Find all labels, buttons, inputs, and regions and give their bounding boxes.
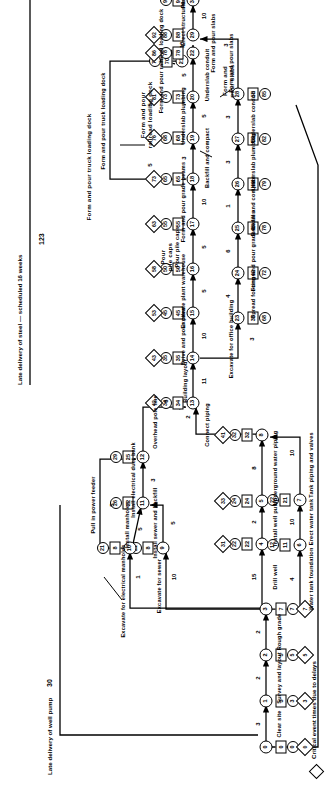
activity-duration-8-13: 2 (185, 415, 191, 418)
activity-label-12-13: Overhead pole line (152, 395, 158, 449)
activity-label-2-3: Rough grade (276, 614, 282, 651)
activity-label-22-29: Form and pour slabs (210, 13, 216, 72)
caption-railroad-loading-dock: Form and pour railroad loading dock (140, 82, 153, 149)
activity-label-13-14: Building layout (182, 359, 188, 402)
activity-duration-18-19: 3 (181, 156, 187, 159)
activity-duration-24-25: 6 (225, 249, 231, 252)
activity-duration-17-18: 10 (201, 199, 207, 206)
event-5-latest-box: 24 (242, 495, 253, 508)
caption-form-pour-slabs-lower: Form and pour slabs (222, 64, 235, 97)
event-22-latest-box: 78 (173, 47, 184, 60)
activity-label-0-1: Clear site (276, 710, 282, 737)
event-node-19: 19 (187, 132, 200, 145)
event-23-earliest-circle: 68 (259, 312, 271, 324)
activity-duration-26-27: 3 (225, 160, 231, 163)
activity-label-17-18: Form and pour grade beams (180, 162, 186, 243)
event-node-11: 11 (137, 497, 150, 510)
annotation-steel: Late delivery of steel — scheduled 16 we… (16, 255, 23, 385)
activity-duration-23-24: 4 (225, 294, 231, 297)
event-node-8: 8 (256, 429, 269, 442)
activity-duration-13-14: 11 (201, 378, 207, 384)
activity-duration-18-21: 5 (147, 163, 153, 166)
event-node-25: 25 (232, 222, 245, 235)
event-26-earliest-circle: 79 (259, 178, 271, 190)
activity-duration-4-5: 2 (251, 520, 257, 523)
activity-duration-3-9: 10 (171, 574, 177, 581)
event-node-22: 22 (187, 47, 200, 60)
activity-label-3-9: Excavate for sewer (156, 559, 162, 613)
event-12-earliest-circle: 29 (110, 451, 122, 463)
activity-label-9-11: Install sewer and backfill (152, 487, 158, 558)
annotation-well-pump-value: 30 (46, 679, 53, 687)
activity-duration-19-20: 5 (201, 114, 207, 117)
event-27-earliest-circle: 82 (259, 133, 271, 145)
event-7-latest-box: 21 (280, 494, 291, 507)
activity-duration-29-30: 10 (201, 13, 207, 20)
event-node-18: 18 (187, 173, 200, 186)
activity-duration-11-12: 3 (150, 478, 156, 481)
activity-duration-22-29: 10 (179, 42, 185, 49)
event-node-9: 9 (157, 542, 170, 555)
activity-label-6-7: Erect water tank (308, 499, 314, 545)
event-node-17: 17 (187, 218, 200, 231)
activity-duration-3-4: 15 (251, 574, 257, 581)
event-24-earliest-circle: 72 (259, 267, 271, 279)
activity-label-27-28: Underslab conduit (250, 91, 256, 144)
activity-duration-10-12: 5 (109, 503, 115, 506)
activity-duration-1-2: 2 (255, 676, 261, 679)
activity-label-21-22: Form and pour railroad loading dock (158, 9, 164, 114)
activity-duration-9-11: 5 (170, 521, 176, 524)
network-diagram: 0000133325553777422223152424336111272122… (0, 0, 332, 805)
activity-label-30-31: Plumb and bolt steel (180, 0, 186, 8)
activity-duration-28-29: 3 (223, 43, 229, 46)
event-node-6: 6 (294, 539, 307, 552)
event-node-29: 29 (187, 29, 200, 42)
event-node-7: 7 (294, 494, 307, 507)
event-node-13: 13 (187, 397, 200, 410)
activity-duration-5-8: 8 (251, 466, 257, 469)
event-25-earliest-circle: 78 (259, 222, 271, 234)
annotation-steel-value: 123 (38, 233, 45, 245)
rotated-figure-canvas: 0000133325553777422223152424336111272122… (0, 0, 332, 805)
event-4-latest-box: 22 (242, 538, 253, 551)
event-10-latest-box: 8 (110, 542, 121, 555)
event-node-1: 1 (260, 695, 273, 708)
activity-label-18-19: Backfill and compact (204, 128, 210, 188)
event-node-24: 24 (232, 267, 245, 280)
activity-label-3-4: Drill well (272, 564, 278, 589)
activity-duration-7-8: 10 (289, 450, 295, 457)
activity-label-3-10: Excavate for electrical manholes (120, 544, 126, 637)
event-node-0: 0 (260, 741, 273, 754)
activity-duration-6-7: 10 (289, 519, 295, 526)
activity-label-8-13: Connect piping (204, 403, 210, 447)
activity-duration-15-16: 5 (201, 289, 207, 292)
activity-duration-0-1: 3 (255, 722, 261, 725)
activity-label-3-6: Water tank foundation (308, 547, 314, 610)
legend-critical-note: Critical event times due to delays (310, 661, 317, 759)
activity-duration-2-3: 2 (255, 630, 261, 633)
event-node-26: 26 (232, 178, 245, 191)
event-8-latest-box: 32 (242, 429, 253, 442)
activity-label-5-8: Underground water piping (272, 431, 278, 506)
event-node-14: 14 (187, 352, 200, 365)
activity-label-19-20: Underslab plumbing (180, 87, 186, 145)
activity-duration-3-6: 4 (289, 577, 295, 580)
event-node-27: 27 (232, 133, 245, 146)
annotation-well-pump: Late delivery of well pump (46, 698, 53, 775)
activity-duration-14-23: 3 (249, 337, 255, 340)
event-10-earliest-circle: 21 (97, 542, 109, 554)
activity-duration-21-22: 5 (147, 103, 153, 106)
activity-duration-27-28: 3 (225, 115, 231, 118)
activity-duration-20-22: 5 (181, 73, 187, 76)
activity-label-10-12: Pull in power feeder (90, 476, 96, 533)
activity-duration-16-17: 5 (201, 245, 207, 248)
activity-duration-14-15: 10 (201, 333, 207, 340)
event-node-3: 3 (260, 603, 273, 616)
event-node-16: 16 (187, 263, 200, 276)
caption-truck-loading-dock: Form and pour truck loading dock (86, 114, 93, 221)
activity-label-7-8: Tank piping and valves (308, 432, 314, 498)
event-0-latest-box: 0 (276, 741, 287, 754)
activity-label-14-23: Excavate for office building (228, 300, 234, 379)
event-node-15: 15 (187, 307, 200, 320)
activity-duration-25-26: 1 (225, 204, 231, 207)
